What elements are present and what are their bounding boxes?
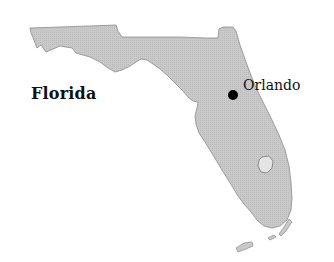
state-label: Florida <box>31 84 97 103</box>
city-dot-icon <box>228 90 238 100</box>
map-canvas: Florida Orlando <box>0 0 334 262</box>
florida-map <box>0 0 334 262</box>
florida-keys-shape <box>268 235 276 240</box>
city-label-orlando: Orlando <box>243 77 300 93</box>
florida-mainland-shape <box>30 25 292 228</box>
florida-keys-shape <box>236 242 253 252</box>
